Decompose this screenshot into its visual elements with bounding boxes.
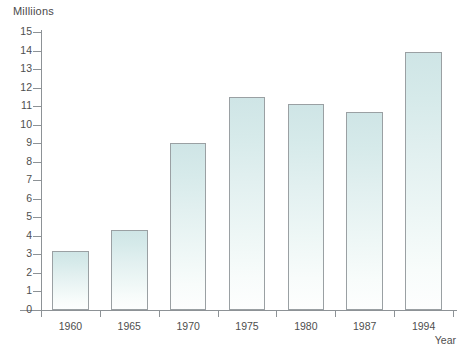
y-tick-mark <box>33 88 41 89</box>
y-tick-mark <box>33 51 41 52</box>
bar <box>170 143 206 310</box>
y-tick-label: 13 <box>12 62 32 74</box>
y-tick-label: 14 <box>12 44 32 56</box>
x-axis-line <box>20 310 457 311</box>
y-tick-mark <box>33 199 41 200</box>
y-tick-label: 6 <box>12 192 32 204</box>
y-tick-mark <box>33 291 41 292</box>
y-tick-label: 3 <box>12 247 32 259</box>
x-tick-mark <box>218 310 219 317</box>
y-tick-mark <box>33 32 41 33</box>
bar <box>405 52 441 310</box>
y-tick-label: 7 <box>12 173 32 185</box>
y-tick-mark <box>33 180 41 181</box>
x-tick-label: 1987 <box>353 320 376 332</box>
x-tick-mark <box>453 310 454 317</box>
bar-series <box>41 32 453 310</box>
y-tick-label: 10 <box>12 118 32 130</box>
x-tick-mark <box>100 310 101 317</box>
y-axis-title: Milliions <box>13 5 54 17</box>
y-tick-mark <box>33 143 41 144</box>
y-tick-label: 2 <box>12 266 32 278</box>
bar <box>111 230 147 310</box>
x-tick-mark <box>335 310 336 317</box>
x-tick-label: 1960 <box>59 320 82 332</box>
y-tick-label: 12 <box>12 81 32 93</box>
bar <box>346 112 382 310</box>
y-tick-label: 0 <box>12 303 32 315</box>
x-tick-label: 1980 <box>294 320 317 332</box>
bar <box>229 97 265 310</box>
x-tick-label: 1994 <box>412 320 435 332</box>
bar-chart: Milliions 0123456789101112131415 1960196… <box>0 0 465 351</box>
x-tick-mark <box>41 310 42 317</box>
y-tick-mark <box>33 273 41 274</box>
y-tick-label: 11 <box>12 99 32 111</box>
y-tick-label: 9 <box>12 136 32 148</box>
bar <box>288 104 324 310</box>
x-tick-label: 1970 <box>176 320 199 332</box>
y-tick-label: 8 <box>12 155 32 167</box>
y-tick-mark <box>33 69 41 70</box>
y-tick-label: 15 <box>12 25 32 37</box>
y-tick-label: 4 <box>12 229 32 241</box>
x-tick-label: 1975 <box>235 320 258 332</box>
y-tick-label: 5 <box>12 210 32 222</box>
y-tick-mark <box>33 106 41 107</box>
y-tick-mark <box>33 236 41 237</box>
x-tick-mark <box>159 310 160 317</box>
y-tick-label: 1 <box>12 284 32 296</box>
x-tick-mark <box>276 310 277 317</box>
y-tick-mark <box>33 254 41 255</box>
x-tick-label: 1965 <box>118 320 141 332</box>
y-tick-mark <box>33 162 41 163</box>
bar <box>52 251 88 310</box>
y-tick-mark <box>33 217 41 218</box>
x-axis-title: Year <box>435 334 456 346</box>
x-tick-mark <box>394 310 395 317</box>
y-tick-mark <box>33 125 41 126</box>
